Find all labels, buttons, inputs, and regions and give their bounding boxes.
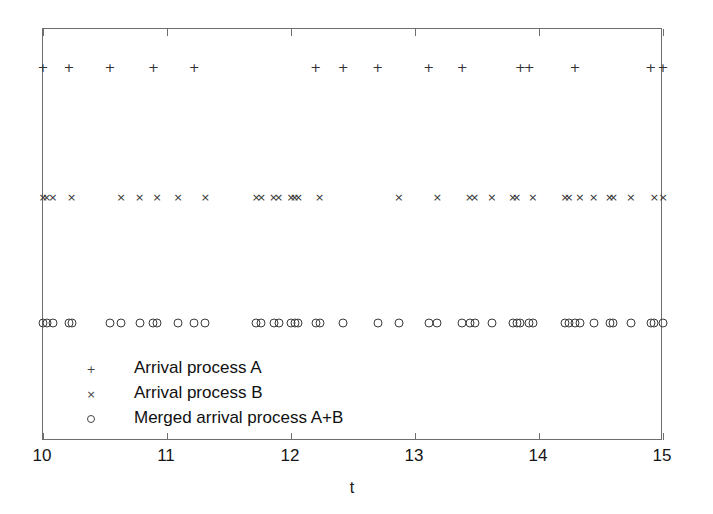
x-tick-top [663, 29, 664, 36]
data-point [153, 319, 162, 328]
x-tick [43, 433, 44, 440]
x-tick-label: 10 [33, 446, 52, 466]
legend-label-b: Arrival process B [134, 383, 262, 403]
data-point: + [372, 61, 383, 74]
data-point [650, 319, 659, 328]
data-point: × [294, 192, 303, 203]
data-point: × [589, 192, 598, 203]
data-point: × [433, 192, 442, 203]
data-point: + [658, 61, 669, 74]
data-point [274, 319, 283, 328]
data-point: + [570, 61, 581, 74]
data-point: × [465, 192, 474, 203]
data-point [257, 319, 266, 328]
data-point: × [67, 192, 76, 203]
data-point: × [512, 192, 521, 203]
data-point: × [269, 192, 278, 203]
data-point: + [64, 61, 75, 74]
x-tick-label: 14 [529, 446, 548, 466]
x-axis-label: t [350, 479, 354, 497]
data-point: + [189, 61, 200, 74]
x-tick-label: 15 [653, 446, 672, 466]
data-point: × [174, 192, 183, 203]
data-point [42, 319, 51, 328]
data-point: × [42, 192, 51, 203]
data-point [589, 319, 598, 328]
data-point: × [528, 192, 537, 203]
data-point: × [508, 192, 517, 203]
data-point [39, 319, 48, 328]
data-point [605, 319, 614, 328]
data-point [373, 319, 382, 328]
data-point [516, 319, 525, 328]
data-point [458, 319, 467, 328]
x-tick [663, 433, 664, 440]
data-point: + [457, 61, 468, 74]
data-point: + [148, 61, 159, 74]
data-point [512, 319, 521, 328]
data-point: × [152, 192, 161, 203]
legend: + Arrival process A × Arrival process B … [58, 357, 358, 432]
data-point [470, 319, 479, 328]
data-point [252, 319, 261, 328]
data-point [287, 319, 296, 328]
data-point [609, 319, 618, 328]
data-point: × [38, 192, 47, 203]
data-point: × [286, 192, 295, 203]
x-tick-label: 12 [281, 446, 300, 466]
data-point [315, 319, 324, 328]
x-tick [291, 433, 292, 440]
data-point: × [252, 192, 261, 203]
x-tick-top [539, 29, 540, 36]
data-point [48, 319, 57, 328]
data-point [659, 319, 668, 328]
data-point: × [560, 192, 569, 203]
data-point [487, 319, 496, 328]
data-point [570, 319, 579, 328]
data-point [465, 319, 474, 328]
data-point: × [609, 192, 618, 203]
x-tick-top [167, 29, 168, 36]
data-point: × [626, 192, 635, 203]
data-point: × [274, 192, 283, 203]
x-tick [539, 433, 540, 440]
data-point [424, 319, 433, 328]
data-point: × [201, 192, 210, 203]
data-point: × [650, 192, 659, 203]
plus-marker-icon: + [86, 364, 95, 375]
data-point [508, 319, 517, 328]
data-point [174, 319, 183, 328]
x-tick-top [43, 29, 44, 36]
circle-marker-icon [87, 415, 95, 423]
data-point: × [575, 192, 584, 203]
data-point: × [315, 192, 324, 203]
data-point: × [48, 192, 57, 203]
data-point: × [470, 192, 479, 203]
data-point [190, 319, 199, 328]
legend-row-a: + Arrival process A [58, 357, 358, 382]
x-tick-label: 11 [157, 446, 175, 466]
legend-row-b: × Arrival process B [58, 382, 358, 407]
data-point: × [564, 192, 573, 203]
data-point: + [524, 61, 535, 74]
data-point [290, 319, 299, 328]
data-point [433, 319, 442, 328]
x-tick-label: 13 [405, 446, 424, 466]
data-point [528, 319, 537, 328]
data-point [201, 319, 210, 328]
x-tick-top [291, 29, 292, 36]
arrival-process-scatter-figure: +++++++++++++++ ××××××××××××××××××××××××… [0, 0, 713, 514]
data-point: + [310, 61, 321, 74]
legend-label-merged: Merged arrival process A+B [134, 408, 343, 428]
data-point: × [487, 192, 496, 203]
data-point [135, 319, 144, 328]
x-tick [167, 433, 168, 440]
data-point: × [290, 192, 299, 203]
data-point [294, 319, 303, 328]
data-point: × [605, 192, 614, 203]
data-point [269, 319, 278, 328]
cross-marker-icon: × [86, 389, 95, 400]
data-point: + [338, 61, 349, 74]
data-point [65, 319, 74, 328]
x-tick [415, 433, 416, 440]
